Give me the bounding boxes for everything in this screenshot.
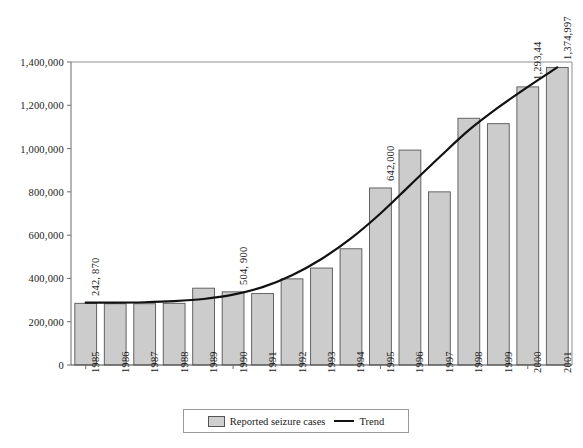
bar-1994	[340, 249, 362, 365]
x-axis-label-1986: 1986	[120, 351, 131, 373]
bar-1999	[487, 124, 509, 365]
data-label-1990: 504, 900	[238, 246, 249, 284]
bar-1998	[458, 118, 480, 365]
legend-bar-swatch-icon	[208, 416, 225, 427]
x-axis-label-1994: 1994	[355, 351, 366, 373]
x-axis-label-1996: 1996	[414, 351, 425, 373]
data-label-1995: 642,000	[385, 145, 396, 181]
x-axis-label-1999: 1999	[503, 351, 514, 373]
data-label-2000: 1,293,44	[532, 42, 543, 80]
x-axis-label-2000: 2000	[532, 351, 543, 373]
legend-item-bar: Reported seizure cases	[208, 416, 326, 427]
legend-bar-label: Reported seizure cases	[230, 416, 326, 427]
x-axis-label-1990: 1990	[238, 351, 249, 373]
legend-line-label: Trend	[359, 416, 384, 427]
x-axis-label-1992: 1992	[297, 351, 308, 373]
bar-2000	[517, 87, 539, 365]
x-axis-label-1993: 1993	[326, 351, 337, 373]
chart-legend: Reported seizure cases Trend	[183, 409, 409, 433]
seizure-cases-chart: 0200,000400,000600,000800,0001,000,0001,…	[0, 0, 583, 448]
x-axis-label-1997: 1997	[444, 351, 455, 373]
plot-area-svg	[0, 0, 583, 448]
x-axis-label-1987: 1987	[149, 351, 160, 373]
bar-1997	[428, 192, 450, 365]
trend-line	[86, 67, 558, 302]
data-label-1985: 242, 870	[90, 258, 101, 296]
legend-item-line: Trend	[334, 416, 384, 427]
x-axis-label-1985: 1985	[90, 351, 101, 373]
x-axis-label-1998: 1998	[473, 351, 484, 373]
x-axis-label-1989: 1989	[208, 351, 219, 373]
x-axis-label-1988: 1988	[179, 351, 190, 373]
x-axis-label-2001: 2001	[562, 351, 573, 373]
data-label-2001: 1,374,997	[562, 17, 573, 61]
legend-line-swatch-icon	[334, 420, 354, 422]
x-axis-label-1991: 1991	[267, 351, 278, 373]
x-axis-label-1995: 1995	[385, 351, 396, 373]
bar-1996	[399, 150, 421, 365]
bar-2001	[546, 67, 568, 365]
